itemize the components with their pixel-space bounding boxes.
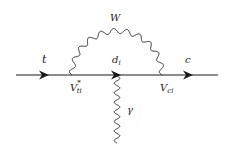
label-gamma: γ xyxy=(127,104,133,115)
label-v-ti: V*ti xyxy=(70,79,82,95)
label-w: W xyxy=(110,12,121,23)
label-v-ti-subscript: ti xyxy=(77,87,82,95)
label-v-ci: Vci xyxy=(160,82,173,95)
label-v-ti-superscript: * xyxy=(77,79,81,87)
label-d-i: di xyxy=(112,54,121,67)
feynman-diagram: t W di c V*ti Vci γ xyxy=(0,0,228,151)
w-boson-arc xyxy=(70,29,164,75)
label-v-ci-subscript: ci xyxy=(167,87,173,95)
label-t: t xyxy=(42,53,47,66)
label-d-subscript: i xyxy=(118,59,120,67)
label-c: c xyxy=(185,54,191,65)
photon-line xyxy=(114,76,120,143)
